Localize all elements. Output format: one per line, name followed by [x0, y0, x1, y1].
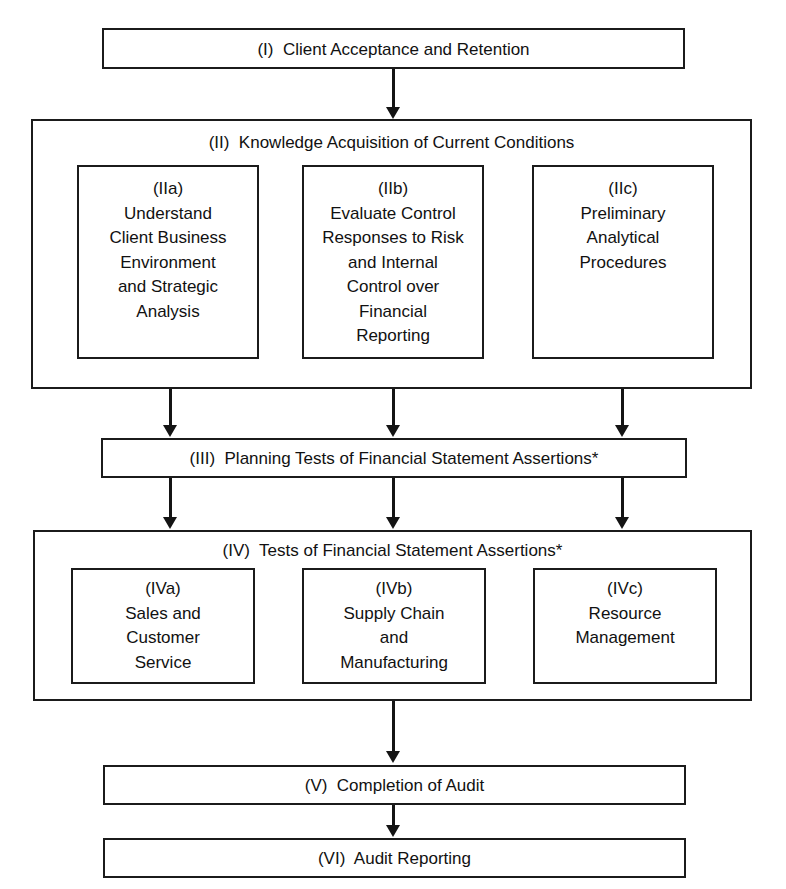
stage-iii-box: (III) Planning Tests of Financial Statem… — [101, 438, 687, 478]
stage-v-box: (V) Completion of Audit — [103, 765, 686, 805]
stage-vi-box: (VI) Audit Reporting — [103, 838, 686, 878]
stage-ii-header: (II) Knowledge Acquisition of Current Co… — [33, 132, 750, 154]
stage-ivb-id: (IVb) — [304, 577, 484, 602]
stage-ivb-line-2: and — [304, 626, 484, 651]
stage-iva-id: (IVa) — [73, 577, 253, 602]
stage-iii-label: (III) Planning Tests of Financial Statem… — [103, 448, 685, 470]
stage-iia-line-1: Understand — [79, 202, 257, 227]
stage-iia-text: (IIa) Understand Client Business Environ… — [79, 177, 257, 324]
stage-iic-text: (IIc) Preliminary Analytical Procedures — [534, 177, 712, 275]
stage-iia-line-2: Client Business — [79, 226, 257, 251]
stage-iva-text: (IVa) Sales and Customer Service — [73, 577, 253, 675]
stage-ivb-line-1: Supply Chain — [304, 602, 484, 627]
stage-ivb-box: (IVb) Supply Chain and Manufacturing — [302, 568, 486, 684]
stage-iia-line-4: and Strategic — [79, 275, 257, 300]
stage-iia-box: (IIa) Understand Client Business Environ… — [77, 165, 259, 359]
stage-ivc-box: (IVc) Resource Management — [533, 568, 717, 684]
stage-iv-header: (IV) Tests of Financial Statement Assert… — [35, 540, 750, 562]
stage-iia-line-5: Analysis — [79, 300, 257, 325]
stage-iib-line-5: Financial — [304, 300, 482, 325]
stage-ivc-text: (IVc) Resource Management — [535, 577, 715, 651]
stage-iic-box: (IIc) Preliminary Analytical Procedures — [532, 165, 714, 359]
stage-iic-line-2: Analytical — [534, 226, 712, 251]
stage-ivc-id: (IVc) — [535, 577, 715, 602]
stage-iib-text: (IIb) Evaluate Control Responses to Risk… — [304, 177, 482, 349]
stage-v-label: (V) Completion of Audit — [105, 775, 684, 797]
stage-iib-line-2: Responses to Risk — [304, 226, 482, 251]
stage-iva-line-2: Customer — [73, 626, 253, 651]
stage-ivb-text: (IVb) Supply Chain and Manufacturing — [304, 577, 484, 675]
stage-vi-label: (VI) Audit Reporting — [105, 848, 684, 870]
stage-iva-line-1: Sales and — [73, 602, 253, 627]
stage-iia-id: (IIa) — [79, 177, 257, 202]
stage-iib-line-1: Evaluate Control — [304, 202, 482, 227]
stage-iib-line-3: and Internal — [304, 251, 482, 276]
stage-iia-line-3: Environment — [79, 251, 257, 276]
stage-iva-box: (IVa) Sales and Customer Service — [71, 568, 255, 684]
flowchart-canvas: (I) Client Acceptance and Retention (II)… — [0, 0, 786, 889]
stage-iva-line-3: Service — [73, 651, 253, 676]
stage-ivc-line-1: Resource — [535, 602, 715, 627]
stage-iic-line-3: Procedures — [534, 251, 712, 276]
stage-i-label: (I) Client Acceptance and Retention — [104, 39, 683, 61]
stage-iib-line-4: Control over — [304, 275, 482, 300]
stage-iic-id: (IIc) — [534, 177, 712, 202]
stage-ivc-line-2: Management — [535, 626, 715, 651]
stage-ivb-line-3: Manufacturing — [304, 651, 484, 676]
stage-i-box: (I) Client Acceptance and Retention — [102, 28, 685, 69]
stage-iic-line-1: Preliminary — [534, 202, 712, 227]
stage-iib-line-6: Reporting — [304, 324, 482, 349]
stage-iib-box: (IIb) Evaluate Control Responses to Risk… — [302, 165, 484, 359]
stage-iib-id: (IIb) — [304, 177, 482, 202]
